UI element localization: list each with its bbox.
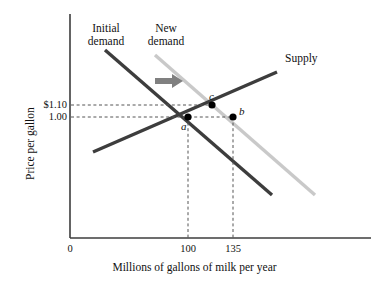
point-c-label: c xyxy=(209,90,214,102)
supply-demand-chart: Initial demand New demand Supply a c b $… xyxy=(0,0,389,283)
initial-demand-label: Initial demand xyxy=(75,22,137,48)
xtick-label-135: 135 xyxy=(219,243,247,255)
y-axis-title: Price per gallon xyxy=(24,107,37,180)
new-demand-curve xyxy=(155,55,315,195)
x-axis-title: Millions of gallons of milk per year xyxy=(0,261,389,274)
supply-curve xyxy=(93,72,277,152)
new-demand-label: New demand xyxy=(137,22,195,48)
point-b-marker xyxy=(229,113,236,120)
point-b-label: b xyxy=(239,105,245,117)
point-a-label: a xyxy=(181,120,187,132)
point-c-marker xyxy=(208,101,215,108)
xtick-label-100: 100 xyxy=(174,243,202,255)
xtick-label-0: 0 xyxy=(56,243,84,255)
supply-label: Supply xyxy=(285,52,335,65)
